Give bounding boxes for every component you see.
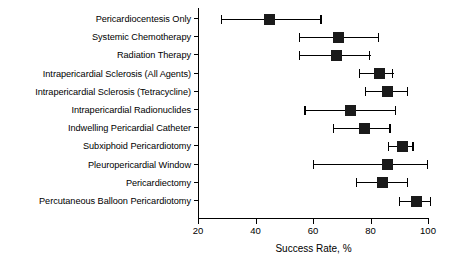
ci-low-cap (365, 87, 366, 96)
x-axis-tick-label: 60 (298, 225, 328, 236)
ci-high-cap (430, 197, 431, 206)
ci-low-cap (313, 160, 314, 169)
ci-low-cap (388, 142, 389, 151)
data-point-marker (374, 68, 385, 79)
ci-low-cap (221, 15, 222, 24)
x-axis-tick-label: 20 (183, 225, 213, 236)
data-point-marker (411, 196, 422, 207)
ci-low-cap (299, 33, 300, 42)
x-axis-tick-label: 40 (241, 225, 271, 236)
x-axis-tick (371, 219, 372, 224)
ci-low-cap (304, 106, 305, 115)
x-axis-title: Success Rate, % (198, 243, 429, 254)
ci-high-cap (427, 160, 428, 169)
category-label: Percutaneous Balloon Pericardiotomy (39, 192, 191, 210)
ci-high-cap (369, 51, 370, 60)
category-label: Pericardiocentesis Only (96, 10, 191, 28)
category-label: Pleuropericardial Window (88, 156, 191, 174)
ci-high-cap (395, 106, 396, 115)
data-point-marker (359, 123, 370, 134)
ci-high-cap (407, 178, 408, 187)
ci-low-cap (299, 51, 300, 60)
category-label: Intrapericardial Radionuclides (71, 101, 191, 119)
category-label: Subxiphoid Pericardiotomy (83, 137, 191, 155)
category-label: Pericardiectomy (126, 174, 191, 192)
x-axis-tick (428, 219, 429, 224)
data-row: Intrapericardial Radionuclides (198, 101, 428, 119)
category-label: Radiation Therapy (117, 46, 191, 64)
ci-low-cap (356, 178, 357, 187)
data-point-marker (345, 105, 356, 116)
x-axis-tick (256, 219, 257, 224)
ci-high-cap (320, 15, 321, 24)
data-row: Radiation Therapy (198, 46, 428, 64)
category-label: Intrapericardial Sclerosis (All Agents) (43, 65, 191, 83)
ci-high-cap (412, 142, 413, 151)
data-row: Subxiphoid Pericardiotomy (198, 137, 428, 155)
data-row: Pericardiectomy (198, 174, 428, 192)
y-axis-line (198, 8, 199, 219)
category-label: Indwelling Pericardial Catheter (68, 119, 191, 137)
ci-high-cap (378, 33, 379, 42)
category-label: Systemic Chemotherapy (92, 28, 191, 46)
x-axis-tick (198, 219, 199, 224)
ci-high-cap (407, 87, 408, 96)
data-row: Percutaneous Balloon Pericardiotomy (198, 192, 428, 210)
x-axis-tick-label: 80 (356, 225, 386, 236)
data-point-marker (333, 32, 344, 43)
x-axis-tick-label: 100 (413, 225, 443, 236)
data-row: Pericardiocentesis Only (198, 10, 428, 28)
data-row: Intrapericardial Sclerosis (Tetracycline… (198, 83, 428, 101)
confidence-interval-line (313, 164, 428, 165)
ci-low-cap (333, 124, 334, 133)
data-point-marker (382, 159, 393, 170)
data-point-marker (331, 50, 342, 61)
data-row: Systemic Chemotherapy (198, 28, 428, 46)
data-row: Pleuropericardial Window (198, 156, 428, 174)
ci-low-cap (359, 69, 360, 78)
data-point-marker (397, 141, 408, 152)
ci-high-cap (392, 69, 393, 78)
plot-area: Pericardiocentesis OnlySystemic Chemothe… (198, 8, 428, 218)
x-axis-tick (313, 219, 314, 224)
ci-high-cap (389, 124, 390, 133)
data-row: Intrapericardial Sclerosis (All Agents) (198, 65, 428, 83)
data-point-marker (377, 177, 388, 188)
forest-plot-figure: Pericardiocentesis OnlySystemic Chemothe… (0, 0, 451, 269)
category-label: Intrapericardial Sclerosis (Tetracycline… (35, 83, 191, 101)
data-point-marker (264, 14, 275, 25)
data-row: Indwelling Pericardial Catheter (198, 119, 428, 137)
data-point-marker (382, 86, 393, 97)
ci-low-cap (399, 197, 400, 206)
